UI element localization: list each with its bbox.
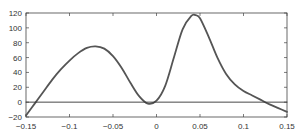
x-axis-tick-labels: −0.15−0.1−0.0500.050.10.15 — [16, 122, 295, 131]
y-tick-label: 100 — [9, 24, 23, 33]
y-tick-label: 120 — [9, 9, 23, 18]
data-series — [26, 15, 287, 116]
y-tick-label: 20 — [13, 83, 22, 92]
y-tick-label: 60 — [13, 54, 22, 63]
x-tick-label: 0.15 — [279, 122, 295, 131]
y-tick-label: 80 — [13, 39, 22, 48]
x-tick-label: −0.1 — [62, 122, 78, 131]
line-chart: −20020406080100120 −0.15−0.1−0.0500.050.… — [0, 0, 303, 139]
y-axis-tick-labels: −20020406080100120 — [8, 9, 22, 122]
y-tick-label: 40 — [13, 68, 22, 77]
x-tick-label: −0.05 — [103, 122, 124, 131]
y-tick-label: 0 — [18, 98, 23, 107]
x-tick-label: −0.15 — [16, 122, 37, 131]
x-tick-label: 0 — [154, 122, 159, 131]
x-tick-label: 0.05 — [192, 122, 208, 131]
x-tick-label: 0.1 — [238, 122, 250, 131]
y-tick-label: −20 — [8, 113, 22, 122]
curve-line — [26, 15, 287, 116]
